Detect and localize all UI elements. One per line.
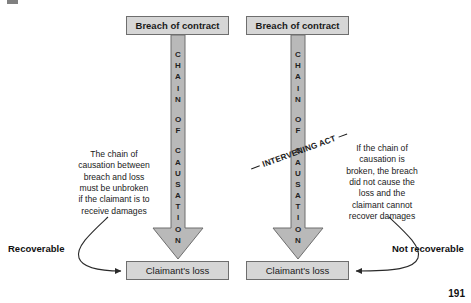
- claimants-loss-box-left: Claimant's loss: [126, 261, 229, 280]
- breach-of-contract-label-right: Breach of contract: [256, 21, 340, 31]
- not-recoverable-label: Not recoverable: [392, 243, 464, 254]
- page-scan-artifact: [7, 0, 18, 4]
- left-explanation-text: The chain of causation between breach an…: [58, 149, 170, 217]
- breach-of-contract-box-right: Breach of contract: [246, 16, 349, 35]
- breach-of-contract-label-left: Breach of contract: [136, 21, 220, 31]
- chain-of-causation-arrow-left: [151, 35, 205, 260]
- intervening-act-dash-right: [338, 133, 347, 137]
- diagram-page: C H A I N O F C A U S A T I O N Breach o…: [0, 0, 471, 303]
- claimants-loss-box-right: Claimant's loss: [246, 261, 349, 280]
- claimants-loss-label-right: Claimant's loss: [266, 266, 330, 276]
- right-explanation-text: If the chain of causation is broken, the…: [324, 143, 440, 222]
- page-number: 191: [448, 288, 465, 299]
- intervening-act-dash-left: [251, 165, 260, 169]
- claimants-loss-label-left: Claimant's loss: [146, 266, 210, 276]
- recoverable-connector-arrow: [78, 217, 121, 271]
- breach-of-contract-box-left: Breach of contract: [126, 16, 229, 35]
- recoverable-label: Recoverable: [8, 243, 65, 254]
